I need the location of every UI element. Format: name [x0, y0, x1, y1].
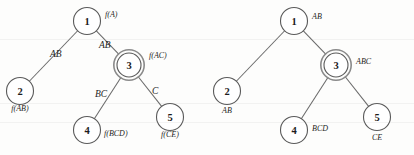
figure-canvas: ABABBCC1f(A)2f(AB)3f(AC)4f(BCD)5f(CE)1AB… — [0, 0, 414, 155]
tree-edge — [301, 77, 328, 118]
scan-artifact-line — [0, 122, 414, 123]
node-number: 2 — [224, 86, 229, 97]
tree-with-set-labels: 1AB2AB3ABC4BCD5CE — [214, 8, 391, 144]
edge-label: AB — [98, 40, 111, 50]
tree-edge — [303, 31, 326, 55]
edge-label: C — [152, 86, 159, 96]
edge-label: AB — [49, 49, 62, 59]
scan-artifact-line — [0, 103, 414, 104]
node-label: f(CE) — [161, 130, 179, 139]
node-label: f(AC) — [149, 51, 167, 60]
node-label: AB — [221, 106, 232, 115]
tree-node[interactable]: 2f(AB) — [7, 78, 34, 114]
node-number: 1 — [84, 16, 89, 27]
node-number: 4 — [84, 125, 90, 136]
tree-with-f-labels: ABABBCC1f(A)2f(AB)3f(AC)4f(BCD)5f(CE) — [7, 8, 184, 144]
tree-node[interactable]: 4BCD — [281, 117, 329, 144]
node-label: ABC — [355, 57, 372, 66]
node-number: 1 — [291, 16, 296, 27]
tree-node[interactable]: 1AB — [281, 8, 322, 35]
tree-node[interactable]: 4f(BCD) — [74, 117, 128, 144]
tree-edge — [345, 76, 369, 106]
node-label: AB — [311, 12, 322, 21]
node-label: f(AB) — [11, 104, 29, 113]
node-number: 3 — [333, 60, 338, 71]
tree-node[interactable]: 3ABC — [321, 50, 372, 80]
node-label: f(A) — [105, 10, 118, 19]
tree-node[interactable]: 1f(A) — [74, 8, 118, 35]
node-label: f(BCD) — [104, 129, 128, 138]
tree-node[interactable]: 3f(AC) — [114, 50, 167, 80]
edge-label: BC — [95, 89, 108, 99]
node-number: 2 — [17, 86, 22, 97]
node-label: CE — [372, 133, 382, 142]
scan-artifact-line — [0, 39, 414, 40]
node-number: 3 — [126, 60, 131, 71]
node-number: 4 — [291, 125, 297, 136]
tree-node[interactable]: 2AB — [214, 78, 241, 116]
tree-diagram-figure: ABABBCC1f(A)2f(AB)3f(AC)4f(BCD)5f(CE)1AB… — [0, 0, 414, 155]
node-label: BCD — [312, 124, 328, 133]
